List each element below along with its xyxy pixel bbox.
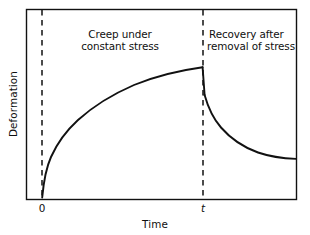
y-axis-label: Deformation — [7, 71, 19, 137]
creep-recovery-chart: Deformation Time 0 t Creep under constan… — [0, 0, 310, 235]
creep-region-annotation-line2: constant stress — [81, 40, 159, 52]
creep-region-annotation-line1: Creep under — [88, 28, 152, 40]
x-tick-label-zero: 0 — [39, 202, 46, 214]
recovery-region-annotation-line1: Recovery after — [209, 28, 284, 40]
recovery-region-annotation-line2: removal of stress — [207, 40, 295, 52]
creep-recovery-figure: Deformation Time 0 t Creep under constan… — [0, 0, 310, 235]
x-axis-label: Time — [141, 218, 168, 230]
x-tick-label-t: t — [201, 202, 206, 214]
